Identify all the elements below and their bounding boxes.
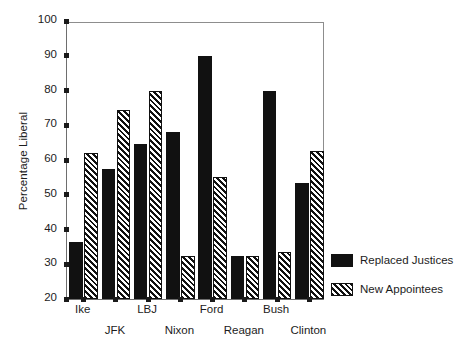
y-tick-label: 100 bbox=[17, 13, 57, 25]
x-axis-label-jfk: JFK bbox=[105, 324, 125, 336]
y-tick-label: 40 bbox=[17, 222, 57, 234]
x-tick-bush bbox=[275, 297, 280, 302]
x-tick-clinton bbox=[307, 297, 312, 302]
bar-jfk-replaced-justices bbox=[102, 169, 116, 299]
x-axis-label-ike: Ike bbox=[75, 303, 90, 315]
chart-legend: Replaced Justices New Appointees bbox=[331, 249, 453, 307]
bar-bush-new-appointees bbox=[278, 252, 292, 299]
x-tick-ford bbox=[210, 297, 215, 302]
legend-swatch-replaced-justices bbox=[331, 254, 353, 267]
x-axis-label-nixon: Nixon bbox=[165, 324, 194, 336]
bar-ford-new-appointees bbox=[213, 177, 227, 299]
legend-label-replaced-justices: Replaced Justices bbox=[360, 254, 453, 266]
legend-item: New Appointees bbox=[331, 278, 453, 300]
bar-lbj-new-appointees bbox=[149, 91, 163, 300]
bar-lbj-replaced-justices bbox=[134, 144, 148, 299]
y-tick-label: 20 bbox=[17, 291, 57, 303]
x-axis-label-lbj: LBJ bbox=[137, 303, 157, 315]
bar-bush-replaced-justices bbox=[263, 91, 277, 300]
x-axis-label-clinton: Clinton bbox=[290, 324, 326, 336]
bar-reagan-new-appointees bbox=[246, 256, 260, 299]
legend-label-new-appointees: New Appointees bbox=[360, 283, 443, 295]
bar-nixon-replaced-justices bbox=[166, 132, 180, 299]
x-axis-label-reagan: Reagan bbox=[224, 324, 264, 336]
legend-item: Replaced Justices bbox=[331, 249, 453, 271]
bar-reagan-replaced-justices bbox=[231, 256, 245, 299]
y-tick-label: 50 bbox=[17, 187, 57, 199]
plot-area: 2030405060708090100 bbox=[66, 22, 324, 300]
bar-nixon-new-appointees bbox=[181, 256, 195, 299]
y-tick-label: 70 bbox=[17, 117, 57, 129]
bar-ford-replaced-justices bbox=[198, 56, 212, 299]
x-axis-label-bush: Bush bbox=[263, 303, 289, 315]
bar-jfk-new-appointees bbox=[117, 110, 131, 299]
x-tick-nixon bbox=[178, 297, 183, 302]
bar-ike-replaced-justices bbox=[69, 242, 83, 299]
y-tick-label: 80 bbox=[17, 83, 57, 95]
y-tick-label: 60 bbox=[17, 152, 57, 164]
y-tick-label: 90 bbox=[17, 48, 57, 60]
bar-series-container bbox=[67, 23, 323, 299]
x-tick-reagan bbox=[242, 297, 247, 302]
bar-clinton-replaced-justices bbox=[295, 183, 309, 299]
x-axis-label-ford: Ford bbox=[200, 303, 224, 315]
bar-chart: Percentage Liberal 2030405060708090100 I… bbox=[0, 0, 461, 359]
y-tick-label: 30 bbox=[17, 256, 57, 268]
x-tick-ike bbox=[81, 297, 86, 302]
x-tick-jfk bbox=[113, 297, 118, 302]
bar-ike-new-appointees bbox=[84, 153, 98, 299]
x-tick-lbj bbox=[146, 297, 151, 302]
legend-swatch-new-appointees bbox=[331, 283, 353, 296]
bar-clinton-new-appointees bbox=[310, 151, 324, 299]
